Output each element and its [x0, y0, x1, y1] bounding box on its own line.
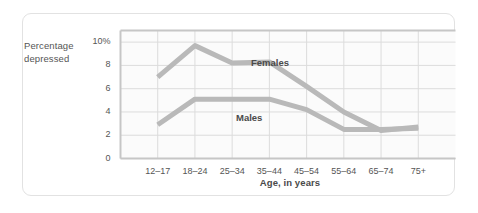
y-tick-label: 2	[77, 129, 111, 139]
x-tick-label: 18–24	[182, 166, 207, 176]
x-tick-label: 65–74	[369, 166, 394, 176]
x-tick-label: 12–17	[145, 166, 170, 176]
x-tick-label: 55–64	[331, 166, 356, 176]
x-tick-label: 75+	[411, 166, 426, 176]
y-tick-label: 4	[77, 106, 111, 116]
series-label-males: Males	[236, 112, 262, 123]
y-tick-label: 6	[77, 83, 111, 93]
x-tick-label: 35–44	[257, 166, 282, 176]
y-tick-label: 10%	[77, 36, 111, 46]
plot-background	[121, 31, 456, 159]
y-tick-label: 0	[77, 153, 111, 163]
series-label-females: Females	[251, 57, 289, 68]
x-tick-label: 45–54	[294, 166, 319, 176]
x-axis-title: Age, in years	[130, 177, 450, 188]
depression-by-age-line-chart: Percentage depressed Age, in years 02468…	[0, 0, 478, 213]
y-tick-label: 8	[77, 59, 111, 69]
x-tick-label: 25–34	[220, 166, 245, 176]
